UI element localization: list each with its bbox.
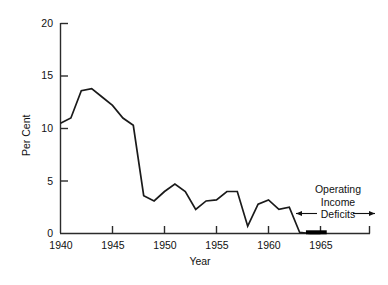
annotation-line-operating: Operating — [296, 183, 380, 196]
data-series-line — [61, 89, 321, 234]
x-axis-ticks — [113, 226, 370, 234]
operating-income-deficits-annotation: Operating Income Deficits — [296, 183, 380, 221]
x-tick-label-1965: 1965 — [299, 240, 343, 251]
y-tick-label-15: 15 — [20, 70, 53, 81]
x-tick-label-1960: 1960 — [247, 240, 291, 251]
chart-container: 20 15 10 5 0 1940 1945 1950 1955 1960 19… — [0, 0, 388, 285]
y-axis-ticks — [61, 24, 69, 182]
y-tick-label-0: 0 — [20, 228, 53, 239]
x-tick-label-1940: 1940 — [39, 240, 83, 251]
y-tick-label-20: 20 — [20, 18, 53, 29]
x-tick-label-1945: 1945 — [91, 240, 135, 251]
annotation-line-deficits: Deficits — [296, 208, 380, 221]
x-tick-label-1955: 1955 — [195, 240, 239, 251]
annotation-line-income: Income — [296, 196, 380, 209]
y-axis-title: Per Cent — [21, 100, 32, 170]
x-axis-title: Year — [170, 256, 230, 267]
x-tick-label-1950: 1950 — [143, 240, 187, 251]
y-tick-label-5: 5 — [20, 176, 53, 187]
